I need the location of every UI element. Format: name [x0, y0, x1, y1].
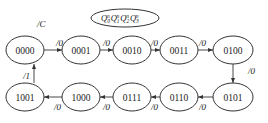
svg-text:0101: 0101 [224, 93, 243, 103]
output-label: /C [36, 19, 47, 29]
svg-text:0011: 0011 [170, 46, 189, 56]
svg-text:0000: 0000 [16, 46, 35, 56]
transition-0100-0101: /0 [233, 64, 256, 83]
state-0001: 0001 [62, 36, 100, 64]
svg-text:0111: 0111 [123, 93, 142, 103]
svg-text:0100: 0100 [224, 46, 243, 56]
transition-0110-0111: /0 [150, 97, 160, 112]
svg-text:/0: /0 [247, 66, 256, 76]
state-0100: 0100 [213, 36, 253, 64]
state-0101: 0101 [213, 83, 253, 111]
state-0010: 0010 [113, 36, 151, 64]
svg-text:1000: 1000 [72, 93, 91, 103]
transition-1000-1001: /0 [44, 97, 62, 112]
state-1001: 1001 [6, 83, 44, 111]
state-1000: 1000 [62, 83, 100, 111]
transition-0101-0110: /0 [198, 97, 213, 112]
state-0011: 0011 [160, 36, 198, 64]
svg-text:0010: 0010 [123, 46, 142, 56]
svg-text:/0: /0 [150, 102, 159, 112]
svg-text:/0: /0 [53, 102, 62, 112]
legend-text: Q0nQ1nQ2nQ3n [101, 13, 139, 24]
legend: Q0nQ1nQ2nQ3n [91, 9, 159, 27]
transition-0000-0001: /0 [44, 38, 64, 50]
svg-text:/0: /0 [102, 102, 111, 112]
svg-text:/0: /0 [150, 38, 159, 48]
transition-0010-0011: /0 [150, 38, 160, 50]
svg-text:/1: /1 [22, 71, 30, 81]
state-0000: 0000 [6, 36, 44, 64]
state-0111: 0111 [113, 83, 151, 111]
svg-text:0001: 0001 [72, 46, 91, 56]
transition-1001-0000: /1 [22, 64, 34, 83]
svg-text:/0: /0 [102, 38, 111, 48]
svg-text:/0: /0 [198, 102, 207, 112]
transition-0011-0100: /0 [198, 38, 213, 50]
svg-text:1001: 1001 [16, 93, 35, 103]
svg-text:/0: /0 [55, 38, 64, 48]
state-0110: 0110 [160, 83, 198, 111]
transition-0111-1000: /0 [100, 97, 113, 112]
transition-0001-0010: /0 [100, 38, 113, 50]
svg-text:0110: 0110 [170, 93, 189, 103]
svg-text:/0: /0 [198, 38, 207, 48]
state-diagram: /C Q0nQ1nQ2nQ3n 0000 0001 0010 0011 0100… [0, 0, 268, 123]
